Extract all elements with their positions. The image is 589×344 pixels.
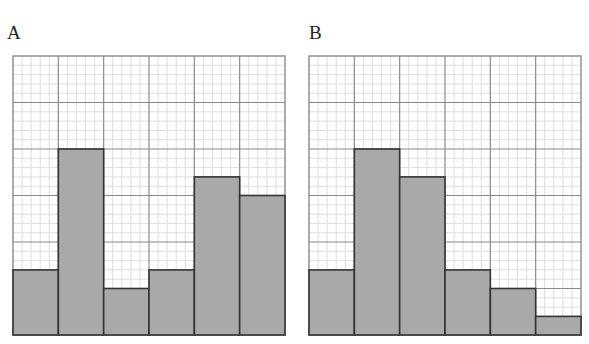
bar-2: [354, 149, 399, 335]
bar-4: [149, 270, 194, 335]
chart-a: [13, 56, 285, 335]
bar-6: [536, 316, 581, 335]
chart-b: [309, 56, 581, 335]
bar-2: [58, 149, 103, 335]
bar-1: [13, 270, 58, 335]
bar-6: [240, 196, 285, 336]
bar-3: [104, 289, 149, 336]
bar-4: [445, 270, 490, 335]
panel-label-b: B: [309, 22, 322, 44]
chart-svg: [309, 56, 581, 335]
bar-3: [400, 177, 445, 335]
bar-1: [309, 270, 354, 335]
bar-5: [490, 289, 535, 336]
chart-svg: [13, 56, 285, 335]
panel-label-a: A: [7, 22, 21, 44]
bar-5: [194, 177, 239, 335]
